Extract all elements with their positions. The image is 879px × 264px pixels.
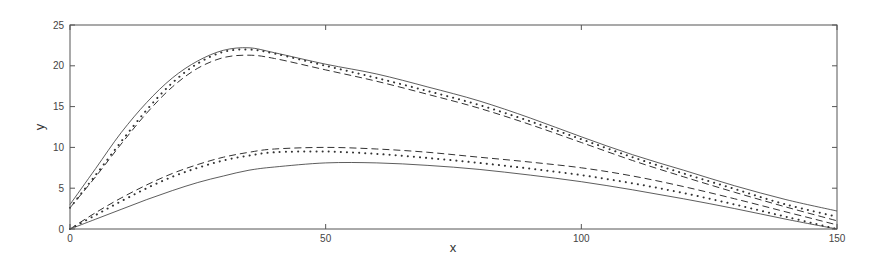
y-tick-label: 15 xyxy=(53,101,65,112)
plot-frame xyxy=(70,25,837,229)
x-tick-label: 150 xyxy=(829,233,846,244)
y-tick-label: 10 xyxy=(53,142,65,153)
x-tick-label: 0 xyxy=(67,233,73,244)
x-axis-label: x xyxy=(450,240,457,255)
y-tick-label: 0 xyxy=(58,224,64,235)
y-tick-label: 5 xyxy=(58,183,64,194)
y-tick-label: 20 xyxy=(53,60,65,71)
y-axis-label: y xyxy=(32,123,47,130)
line-chart: 0501001500510152025 x y xyxy=(0,0,879,264)
series-line-upper-dotted xyxy=(70,49,837,216)
series-layer xyxy=(70,48,837,229)
x-tick-label: 100 xyxy=(573,233,590,244)
x-tick-label: 50 xyxy=(320,233,332,244)
ticks-layer: 0501001500510152025 xyxy=(53,20,846,245)
series-line-lower-dotted xyxy=(70,151,837,229)
series-line-lower-dashed xyxy=(70,147,837,229)
y-tick-label: 25 xyxy=(53,20,65,31)
